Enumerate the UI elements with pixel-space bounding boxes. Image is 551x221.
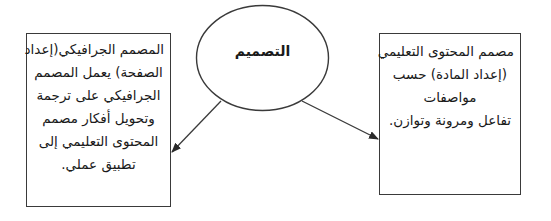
- left-box-line: وتحويل أفكار مصمم: [33, 107, 164, 130]
- left-box-line: المحتوى التعليمي إلى: [33, 130, 164, 153]
- right-box-content-designer: مصمم المحتوى التعليمي (إعداد المادة) حسب…: [379, 33, 521, 195]
- right-box-line: مواصفات: [386, 86, 514, 109]
- center-node-label: التصميم: [196, 5, 329, 111]
- left-box-line: الصفحة) يعمل المصمم: [33, 61, 164, 84]
- left-box-line: الجرافيكي على ترجمة: [33, 84, 164, 107]
- right-box-line: (إعداد المادة) حسب: [386, 63, 514, 86]
- right-box-line: تفاعل ومرونة وتوازن.: [386, 109, 514, 132]
- right-box-line: مصمم المحتوى التعليمي: [386, 40, 514, 63]
- left-box-line: المصمم الجرافيكي(إعداد: [33, 38, 164, 61]
- left-box-line: تطبيق عملي.: [33, 153, 164, 176]
- left-box-graphic-designer: المصمم الجرافيكي(إعداد الصفحة) يعمل المص…: [26, 33, 171, 207]
- center-node-text: التصميم: [235, 43, 291, 59]
